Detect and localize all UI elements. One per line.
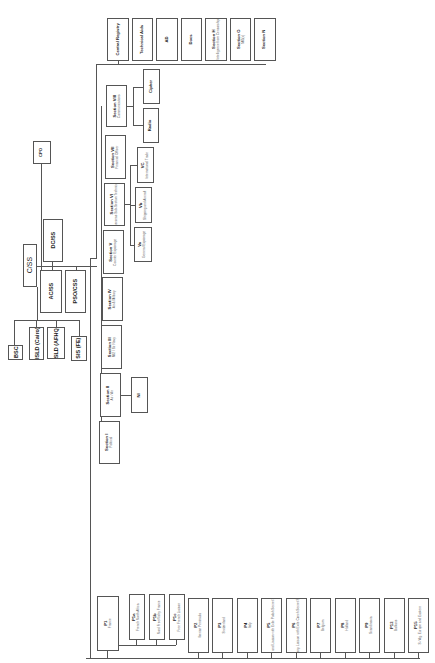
main-trunk (96, 64, 97, 258)
p9-box[interactable]: P9Scandinavia (359, 598, 380, 653)
section-sub: Air / Air (111, 386, 115, 405)
outstation-label: ISLD (AFHQ) (53, 327, 59, 359)
va-box[interactable]: VaGeneral Espionage (134, 227, 152, 262)
sub-unit-label: Radio (149, 120, 154, 132)
ni-box[interactable]: NI (131, 377, 148, 413)
connector (121, 395, 131, 396)
css-label: C/SS (26, 257, 34, 273)
staff-label: Central Registry (116, 23, 121, 55)
p-sub: French North Africa (138, 603, 142, 630)
staff-technical-aids[interactable]: Technical Aids (132, 18, 153, 61)
p1c-box[interactable]: P1cFree French Liaison (169, 594, 185, 640)
connector (119, 645, 176, 646)
outstation-isld-cairo[interactable]: ISLD (Cairo) (29, 327, 44, 360)
section-vi[interactable]: Section VISecret Overseas Sub-Section Te… (104, 183, 125, 226)
section-ii[interactable]: Section IIAir / Air (100, 373, 121, 417)
section-sub: Counter Espionage (114, 238, 118, 265)
connector (133, 87, 143, 88)
outstation-isld-afhq[interactable]: ISLD (AFHQ) (47, 327, 65, 359)
p-sub: Free French Liaison (178, 603, 182, 631)
p5-box[interactable]: P5Poland and Liaison with Exile Polish S… (261, 598, 282, 653)
dcss-label: DC/SS (50, 232, 56, 249)
connector (41, 163, 42, 271)
p2-box[interactable]: P2Iberian Peninsula (188, 598, 209, 653)
p4-box[interactable]: P4Italy (237, 598, 258, 653)
staff-sub: MI5(x) (241, 30, 245, 50)
section-sub: Political (110, 434, 114, 451)
radio-box[interactable]: Radio (143, 108, 159, 143)
css-box[interactable]: C/SS (23, 244, 37, 287)
connector (14, 320, 80, 321)
p1b-box[interactable]: P1bNord Free/Vichy France (149, 594, 165, 640)
p-sub: Switzerland (223, 617, 227, 633)
connector (133, 87, 134, 125)
acss-label: AC/SS (48, 283, 54, 300)
connector (296, 653, 297, 658)
staff-section-h[interactable]: Section HIntelligence from Censorship (205, 18, 227, 61)
p7-box[interactable]: P7Belgium (310, 598, 331, 653)
connector (222, 653, 223, 658)
psocss-box[interactable]: PSO/CSS (65, 270, 86, 313)
staff-central-registry[interactable]: Central Registry (107, 18, 129, 61)
sub-unit-sub: Shipping and Aircraft (144, 190, 148, 219)
p1-box[interactable]: P1France (97, 596, 119, 651)
staff-section-n[interactable]: Section N (254, 18, 276, 61)
connector (176, 640, 177, 645)
p-sub: France (109, 619, 113, 629)
p-sub: Italy (248, 623, 252, 629)
p15-box[interactable]: P15S / Ag. Europe and Eastern (408, 598, 429, 653)
staff-docs[interactable]: Docs (181, 18, 202, 61)
vb-box[interactable]: VbShipping and Aircraft (135, 187, 152, 223)
p-sub: Iberian Peninsula (199, 613, 203, 638)
connector (133, 125, 143, 126)
outstation-label: ISLD (Cairo) (33, 328, 39, 360)
p-sub: Nord Free/Vichy France (158, 600, 162, 634)
staff-section-o[interactable]: Section OMI5(x) (230, 18, 251, 61)
connector (56, 320, 57, 327)
p3-box[interactable]: P3Switzerland (212, 598, 233, 653)
connector (79, 320, 80, 336)
vc-box[interactable]: VCInternational Trade (137, 147, 154, 183)
p-sub: Holland (346, 620, 350, 631)
section-vii[interactable]: Section VIIFinancial Officer (105, 135, 126, 179)
section-iv[interactable]: Section IVAir & Military (102, 277, 123, 321)
section-iii[interactable]: Section IIIMI2 / Sir Navy (101, 325, 122, 369)
acss-box[interactable]: AC/SS (40, 270, 62, 313)
connector (14, 320, 15, 345)
p1a-box[interactable]: P1aFrench North Africa (129, 594, 145, 640)
connector (271, 653, 272, 658)
section-sub: MI2 / Sir Navy (112, 337, 116, 357)
outstation-label: SIS (FE) (76, 338, 82, 359)
p6-box[interactable]: P6Germany, Liaison with Exile Czech Secr… (286, 598, 307, 653)
p-sub: Scandinavia (370, 617, 374, 634)
connector (36, 266, 97, 267)
connector (136, 640, 137, 645)
connector (156, 640, 157, 645)
p-sub: Balkans (395, 620, 399, 631)
p-sub: Belgium (321, 620, 325, 632)
p12-box[interactable]: P12Balkans (384, 598, 405, 653)
dcss-box[interactable]: DC/SS (43, 219, 63, 262)
staff-label: Docs (189, 34, 194, 44)
outstation-bsc[interactable]: BSC (8, 345, 23, 360)
connector (118, 61, 119, 65)
outstation-sis-fe[interactable]: SIS (FE) (71, 336, 87, 361)
section-v[interactable]: Section VCounter Espionage (103, 230, 124, 274)
section-viii[interactable]: Section VIIICommunications (106, 85, 127, 127)
section-i[interactable]: Section IPolitical (99, 421, 120, 464)
cipher-box[interactable]: Cipher (143, 69, 160, 104)
bottom-rail (86, 658, 420, 659)
sub-unit-sub: General Espionage (144, 231, 148, 258)
p-sub: S / Ag. Europe and Eastern (419, 606, 423, 645)
staff-ad[interactable]: AD (156, 18, 178, 61)
section-sub: Secret Overseas Sub-Section Technical Ma… (115, 183, 119, 226)
connector (320, 653, 321, 658)
connector (52, 262, 53, 270)
cpo-box[interactable]: CPO (33, 141, 51, 164)
connector (198, 653, 199, 658)
connector (394, 653, 395, 658)
p8-box[interactable]: P8Holland (335, 598, 356, 653)
connector (36, 320, 37, 327)
connector (418, 653, 419, 658)
connector (369, 653, 370, 658)
